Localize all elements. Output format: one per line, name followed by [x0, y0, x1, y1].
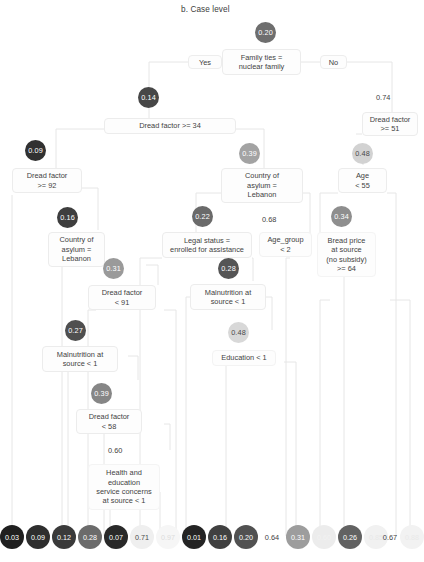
node-condition-legal-status[interactable]: Legal status = enrolled for assistance: [162, 232, 252, 258]
leaf-node: 0.16: [208, 525, 232, 549]
leaf-node: 0.97: [156, 525, 180, 549]
node-condition-country-asylum-lebanon-2[interactable]: Country of asylum = Lebanon: [48, 232, 105, 267]
leaf-value: 0.88: [405, 533, 419, 542]
node-value-dread51: 0.74: [376, 93, 390, 102]
node-condition-dread-factor-58[interactable]: Dread factor < 58: [76, 409, 142, 434]
leaf-node: 0.12: [52, 525, 76, 549]
node-condition-label: Dread factor >= 92: [27, 171, 68, 190]
leaf-value: 0.97: [161, 533, 175, 542]
node-condition-education[interactable]: Education < 1: [212, 350, 276, 366]
leaf-value: 0.31: [291, 533, 305, 542]
node-bubble-education48: 0.48: [228, 322, 249, 343]
node-condition-label: Malnutrition at source < 1: [57, 350, 103, 369]
node-condition-country-asylum-lebanon-1[interactable]: Country of asylum = Lebanon: [221, 168, 303, 203]
node-condition-family-ties[interactable]: Family ties = nuclear family: [222, 49, 301, 75]
branch-chip-yes[interactable]: Yes: [188, 55, 222, 69]
node-condition-label: Bread price at source (no subsidy) >= 64: [326, 236, 366, 274]
node-condition-label: Education < 1: [221, 353, 266, 362]
node-bubble-legal22: 0.22: [192, 206, 213, 227]
leaf-node: 0.03: [0, 525, 24, 549]
leaf-node: 0.20: [234, 525, 258, 549]
branch-label-no: No: [329, 58, 338, 67]
node-bubble-dread91: 0.31: [103, 258, 124, 279]
node-condition-label: Legal status = enrolled for assistance: [170, 236, 244, 255]
node-bubble-country16: 0.16: [57, 207, 78, 228]
leaf-value: 0.07: [109, 533, 123, 542]
leaf-value: 0.67: [383, 533, 397, 542]
node-value: 0.28: [221, 264, 236, 273]
leaf-value: 0.16: [213, 533, 227, 542]
node-condition-label: Dread factor >= 34: [139, 121, 201, 130]
node-value: 0.22: [195, 212, 210, 221]
leaf-node: 0.28: [78, 525, 102, 549]
node-condition-label: Dread factor < 91: [102, 288, 143, 307]
node-condition-label: Age_group < 2: [267, 235, 303, 254]
leaf-node: 0.31: [286, 525, 310, 549]
node-condition-malnutrition-1[interactable]: Malnutrition at source < 1: [190, 284, 266, 310]
leaf-node-plain: 0.67: [378, 525, 402, 549]
leaf-node: 0.60: [312, 525, 336, 549]
node-bubble-dread34: 0.14: [138, 87, 159, 108]
node-condition-dread-factor-92[interactable]: Dread factor >= 92: [12, 168, 82, 193]
node-bubble-malnutrition28: 0.28: [218, 258, 239, 279]
node-condition-label: Malnutrition at source < 1: [205, 288, 251, 307]
decision-tree-figure: b. Case level 0.20 Family ties = nuclear…: [0, 0, 424, 562]
node-bubble-malnutrition27: 0.27: [65, 320, 86, 341]
leaf-node: 0.07: [104, 525, 128, 549]
leaf-node: 0.26: [338, 525, 362, 549]
node-bubble-age55: 0.48: [352, 143, 373, 164]
node-value: 0.31: [106, 264, 121, 273]
node-condition-bread-price[interactable]: Bread price at source (no subsidy) >= 64: [317, 232, 376, 277]
node-bubble-country39: 0.39: [239, 143, 260, 164]
node-condition-dread-factor-91[interactable]: Dread factor < 91: [88, 285, 156, 310]
node-condition-label: Age < 55: [355, 171, 370, 190]
leaf-node: 0.88: [400, 525, 424, 549]
node-condition-dread-factor-51[interactable]: Dread factor >= 51: [362, 112, 418, 136]
leaf-value: 0.01: [187, 533, 201, 542]
leaf-node: 0.71: [130, 525, 154, 549]
node-condition-label: Dread factor < 58: [89, 412, 130, 431]
leaf-value: 0.60: [317, 533, 331, 542]
node-condition-dread-factor-34[interactable]: Dread factor >= 34: [104, 118, 236, 134]
node-value: 0.16: [60, 213, 75, 222]
node-value: 0.27: [68, 326, 83, 335]
leaf-value: 0.26: [343, 533, 357, 542]
leaf-value: 0.20: [239, 533, 253, 542]
node-condition-label: Country of asylum = Lebanon: [245, 171, 279, 199]
leaf-node: 0.01: [182, 525, 206, 549]
node-value: 0.48: [231, 328, 246, 337]
leaf-value: 0.12: [57, 533, 71, 542]
leaf-value: 0.64: [265, 533, 279, 542]
leaf-value: 0.71: [135, 533, 149, 542]
node-condition-age-group[interactable]: Age_group < 2: [259, 232, 312, 257]
node-condition-age-55[interactable]: Age < 55: [338, 168, 387, 193]
node-value-health60: 0.60: [108, 446, 122, 455]
node-bubble-root: 0.20: [255, 22, 276, 43]
node-condition-health-education-concerns[interactable]: Health and education service concerns at…: [88, 464, 160, 510]
tree-edges: [0, 0, 424, 562]
node-condition-label: Family ties = nuclear family: [239, 53, 285, 72]
node-condition-malnutrition-2[interactable]: Malnutrition at source < 1: [42, 346, 118, 372]
leaf-value: 0.09: [31, 533, 45, 542]
node-value: 0.39: [94, 389, 109, 398]
branch-label-yes: Yes: [199, 58, 211, 67]
leaf-node-plain: 0.64: [260, 525, 284, 549]
node-value: 0.09: [28, 146, 43, 155]
leaf-value: 0.28: [83, 533, 97, 542]
node-value: 0.48: [355, 149, 370, 158]
node-bubble-dread58: 0.39: [91, 383, 112, 404]
node-bubble-dread92: 0.09: [25, 140, 46, 161]
node-condition-label: Country of asylum = Lebanon: [59, 235, 93, 263]
node-value: 0.14: [141, 93, 156, 102]
leaf-value: 0.03: [5, 533, 19, 542]
node-value-agegroup: 0.68: [262, 215, 276, 224]
node-bubble-bread34: 0.34: [331, 206, 352, 227]
node-condition-label: Dread factor >= 51: [370, 115, 411, 134]
leaf-node: 0.09: [26, 525, 50, 549]
branch-chip-no[interactable]: No: [320, 55, 347, 69]
figure-title: b. Case level: [181, 5, 230, 14]
node-value: 0.39: [242, 149, 257, 158]
node-value: 0.20: [258, 28, 273, 37]
node-condition-label: Health and education service concerns at…: [96, 468, 151, 506]
node-value: 0.34: [334, 212, 349, 221]
